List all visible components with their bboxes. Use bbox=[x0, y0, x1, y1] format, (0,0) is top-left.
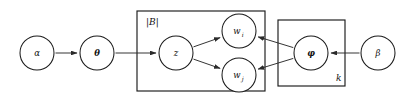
node-theta: θ bbox=[80, 36, 114, 70]
graph-canvas: |B|k αθzwiwjφβ bbox=[0, 0, 408, 102]
node-circle bbox=[294, 36, 328, 70]
node-z: z bbox=[159, 36, 193, 70]
edge-z-to-w_j bbox=[193, 59, 220, 68]
node-circle bbox=[361, 36, 395, 70]
node-circle bbox=[222, 14, 256, 48]
plate-notation-diagram: |B|k αθzwiwjφβ bbox=[0, 0, 408, 102]
node-w_i: wi bbox=[222, 14, 256, 48]
edge-z-to-w_i bbox=[193, 38, 220, 47]
node-circle bbox=[159, 36, 193, 70]
edge-phi-to-w_i bbox=[258, 37, 293, 48]
node-beta: β bbox=[361, 36, 395, 70]
node-circle bbox=[222, 58, 256, 92]
edge-phi-to-w_j bbox=[258, 58, 293, 69]
node-alpha: α bbox=[20, 36, 54, 70]
node-w_j: wj bbox=[222, 58, 256, 92]
plate-count-label: k bbox=[336, 73, 341, 83]
plate-count-label: |B| bbox=[146, 17, 159, 28]
node-circle bbox=[80, 36, 114, 70]
node-circle bbox=[20, 36, 54, 70]
node-phi: φ bbox=[294, 36, 328, 70]
node-subscript-w_i: i bbox=[242, 31, 244, 38]
